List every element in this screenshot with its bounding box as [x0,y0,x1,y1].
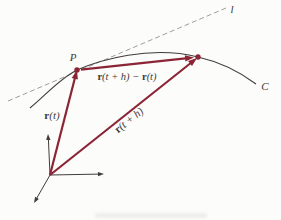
print-bleed-artifact [95,213,207,218]
point-p-label: P [69,51,77,63]
r-t-label-arg: (t) [49,109,60,122]
vector-secant-label: r(t + h) − r(t) [97,71,157,83]
point-p-dot [74,67,79,72]
secant-label-arg2: (t) [147,71,157,83]
point-q-dot [195,54,200,59]
vector-r-t-label: r(t) [44,109,60,122]
vector-derivative-figure: P l C r(t) r(t + h) r(t + h) − r(t) [0,0,281,220]
secant-label-arg1: (t + h) − [102,71,142,83]
curve-label: C [261,80,269,92]
figure-canvas: P l C r(t) r(t + h) r(t + h) − r(t) [0,0,281,220]
tangent-line-label: l [230,3,233,15]
